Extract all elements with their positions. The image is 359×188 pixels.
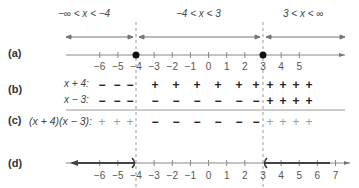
sign-plus: + (292, 95, 299, 107)
sign-minus: − (126, 79, 133, 91)
closed-point-minus4 (133, 52, 140, 59)
tick-label: 4 (278, 170, 284, 181)
tick-label: 5 (296, 61, 302, 72)
tick-label: 2 (242, 61, 248, 72)
interval-label-right: 3 < x < ∞ (283, 8, 323, 19)
sign-plus: + (305, 79, 312, 91)
sign-plus: + (279, 116, 286, 128)
factor-label-x-plus-4: x + 4: (64, 78, 89, 89)
tick-label: −5 (112, 61, 123, 72)
tick-label: 5 (296, 170, 302, 181)
closed-point-3 (260, 52, 267, 59)
sign-minus: − (235, 95, 242, 107)
tick-label: 6 (315, 170, 321, 181)
sign-minus: − (98, 95, 105, 107)
tick-label: −4 (130, 170, 141, 181)
tick-label: 0 (206, 61, 212, 72)
tick-label: 0 (206, 170, 212, 181)
interval-arrows (66, 35, 345, 39)
sign-plus: + (305, 95, 312, 107)
sign-plus: + (193, 79, 200, 91)
tick-label: 3 (260, 170, 266, 181)
number-line-a (66, 52, 345, 59)
row-label-a: (a) (8, 47, 21, 59)
sign-chart-diagram: −∞ < x < −4 −4 < x < 3 3 < x < ∞ (a) (b)… (0, 0, 359, 188)
sign-plus: + (292, 79, 299, 91)
sign-minus: − (151, 116, 158, 128)
sign-minus: − (126, 95, 133, 107)
sign-plus: + (98, 116, 105, 128)
sign-minus: − (252, 116, 259, 128)
sign-minus: − (151, 95, 158, 107)
tick-label: −6 (94, 61, 105, 72)
tick-label: −1 (185, 61, 196, 72)
row-label-b: (b) (8, 83, 22, 95)
sign-minus: − (193, 95, 200, 107)
sign-plus: + (266, 79, 273, 91)
tick-label: −3 (148, 170, 159, 181)
sign-minus: − (172, 95, 179, 107)
sign-plus: + (279, 95, 286, 107)
sign-plus: + (113, 116, 120, 128)
tick-label: 7 (333, 170, 339, 181)
tick-label: 2 (242, 170, 248, 181)
sign-plus: + (266, 95, 273, 107)
tick-label: 3 (260, 61, 266, 72)
sign-plus: + (266, 116, 273, 128)
sign-plus: + (279, 79, 286, 91)
sign-minus: − (252, 95, 259, 107)
row-label-c: (c) (8, 114, 21, 126)
tick-label: −2 (167, 170, 178, 181)
sign-minus: − (113, 95, 120, 107)
sign-minus: − (214, 116, 221, 128)
sign-minus: − (214, 95, 221, 107)
tick-label: 1 (224, 170, 230, 181)
sign-plus: + (252, 79, 259, 91)
tick-label: −3 (148, 61, 159, 72)
interval-label-middle: −4 < x < 3 (176, 8, 221, 19)
sign-plus: + (214, 79, 221, 91)
row-label-d: (d) (8, 157, 22, 169)
tick-label: −6 (94, 170, 105, 181)
tick-label: 4 (278, 61, 284, 72)
sign-minus: − (172, 116, 179, 128)
tick-label: −1 (185, 170, 196, 181)
interval-label-left: −∞ < x < −4 (58, 8, 110, 19)
tick-label: −5 (112, 170, 123, 181)
sign-plus: + (235, 79, 242, 91)
tick-label: −4 (130, 61, 141, 72)
sign-minus: − (98, 79, 105, 91)
sign-minus: − (235, 116, 242, 128)
factor-label-x-minus-3: x − 3: (64, 94, 89, 105)
tick-label: −2 (167, 61, 178, 72)
sign-plus: + (292, 116, 299, 128)
sign-plus: + (305, 116, 312, 128)
tick-label: 1 (224, 61, 230, 72)
product-label: (x + 4)(x − 3): (29, 115, 92, 127)
number-line-d (66, 158, 350, 168)
sign-plus: + (151, 79, 158, 91)
sign-minus: − (193, 116, 200, 128)
sign-plus: + (126, 116, 133, 128)
sign-plus: + (172, 79, 179, 91)
sign-minus: − (113, 79, 120, 91)
